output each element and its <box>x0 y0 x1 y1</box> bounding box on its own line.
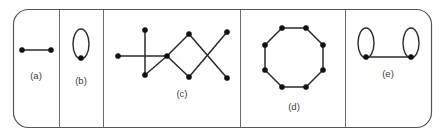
panel-e-vertex-1 <box>363 54 368 59</box>
panel-a: (a) <box>19 47 53 81</box>
panel-d-vertex-2 <box>303 25 308 30</box>
panel-c-vertex-3 <box>142 72 147 77</box>
panel-d: (d) <box>262 25 325 112</box>
panel-d-vertex-7 <box>262 67 267 72</box>
panel-d-vertex-6 <box>279 84 284 89</box>
graph-figure: (a)(b)(c)(d)(e) <box>0 0 444 136</box>
panel-b-vertex-1 <box>78 55 83 60</box>
panel-b-self-loop-1 <box>73 29 89 59</box>
panel-b: (b) <box>73 29 89 86</box>
panel-c-edge-7 <box>189 32 227 77</box>
panel-d-vertex-3 <box>320 42 325 47</box>
graph-figure-canvas: (a)(b)(c)(d)(e) <box>0 0 444 136</box>
panel-c-edge-5 <box>167 56 189 77</box>
panel-c-vertex-5 <box>186 31 191 36</box>
panel-c-label: (c) <box>176 88 187 99</box>
panel-c-vertex-1 <box>115 53 120 58</box>
panel-b-label: (b) <box>75 75 87 86</box>
panel-e-self-loop-2 <box>403 28 419 58</box>
figure-frame <box>14 10 432 128</box>
panel-c-edge-4 <box>167 34 189 56</box>
panel-a-vertex-1 <box>19 47 24 52</box>
panel-e-self-loop-1 <box>358 28 374 58</box>
panel-e-vertex-2 <box>408 54 413 59</box>
panel-c-edge-3 <box>145 56 167 75</box>
panel-e: (e) <box>358 28 419 79</box>
panel-d-edge-6 <box>265 70 282 87</box>
panel-a-label: (a) <box>30 70 42 81</box>
panel-d-label: (d) <box>288 101 300 112</box>
panel-c-vertex-4 <box>164 53 169 58</box>
panel-d-vertex-4 <box>320 67 325 72</box>
panel-c: (c) <box>115 27 229 99</box>
panel-c-vertex-2 <box>142 27 147 32</box>
panel-d-edge-4 <box>306 70 323 87</box>
panel-d-vertex-5 <box>303 84 308 89</box>
panel-d-vertex-1 <box>279 25 284 30</box>
panel-d-vertex-8 <box>262 42 267 47</box>
panel-c-vertex-7 <box>224 29 229 34</box>
panel-d-edge-2 <box>306 28 323 45</box>
panel-e-label: (e) <box>382 68 394 79</box>
panel-c-vertex-6 <box>186 74 191 79</box>
panel-d-edge-8 <box>265 28 282 45</box>
panel-a-vertex-2 <box>48 47 53 52</box>
panel-c-vertex-8 <box>224 75 229 80</box>
